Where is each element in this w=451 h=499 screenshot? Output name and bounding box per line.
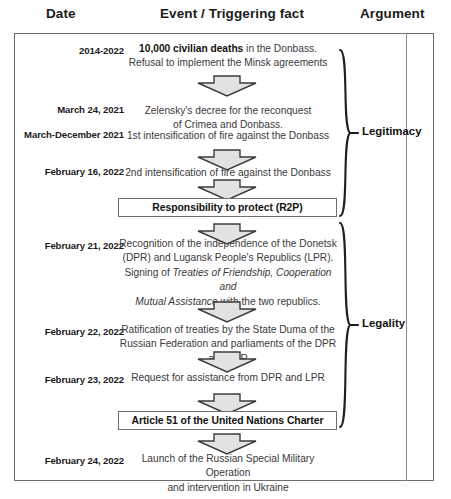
highlight-box-article51: Article 51 of the United Nations Charter — [118, 411, 337, 430]
event-line: Launch of the Russian Special Military O… — [118, 452, 338, 481]
row-date: March-December 2021 — [0, 129, 124, 140]
event-line: Zelensky's decree for the reconquest — [118, 104, 338, 118]
row-event-text: Recognition of the independence of the D… — [118, 237, 338, 309]
event-line: Ratification of treaties by the State Du… — [118, 323, 338, 337]
event-line: 10,000 civilian deaths in the Donbass. — [118, 42, 338, 56]
row-event-text: Launch of the Russian Special Military O… — [118, 452, 338, 495]
row-date: February 24, 2022 — [0, 455, 124, 466]
row-date: February 23, 2022 — [0, 374, 124, 385]
down-arrow-icon — [196, 432, 258, 456]
down-arrow-icon — [196, 350, 258, 374]
brace-legitimacy-label: Legitimacy — [362, 125, 422, 137]
highlight-box-r2p: Responsibility to protect (R2P) — [118, 198, 337, 217]
event-line: Signing of Treaties of Friendship, Coope… — [118, 266, 338, 295]
row-event-text: 1st intensification of fire against the … — [118, 129, 338, 143]
header-date: Date — [46, 6, 76, 21]
brace-legality-label: Legality — [362, 317, 405, 329]
down-arrow-icon — [196, 74, 258, 98]
row-date: February 16, 2022 — [0, 166, 124, 177]
down-arrow-icon — [196, 300, 258, 324]
event-line: and intervention in Ukraine — [118, 481, 338, 495]
argument-column-divider — [406, 33, 407, 481]
column-headers: Date Event / Triggering fact Argument — [0, 6, 451, 30]
event-line: 1st intensification of fire against the … — [118, 129, 338, 143]
down-arrow-icon — [196, 148, 258, 172]
brace-legitimacy — [338, 48, 360, 218]
row-date: February 21, 2022 — [0, 240, 124, 251]
brace-legality — [338, 221, 360, 429]
header-event: Event / Triggering fact — [160, 6, 304, 21]
row-date: March 24, 2021 — [0, 104, 124, 115]
row-date: 2014-2022 — [0, 45, 124, 56]
down-arrow-icon — [196, 222, 258, 246]
row-date: February 22, 2022 — [0, 326, 124, 337]
header-argument: Argument — [360, 6, 425, 21]
event-line: Refusal to implement the Minsk agreement… — [118, 56, 338, 70]
event-line: (DPR) and Lugansk People's Republics (LP… — [118, 251, 338, 265]
row-event-text: 10,000 civilian deaths in the Donbass.Re… — [118, 42, 338, 71]
